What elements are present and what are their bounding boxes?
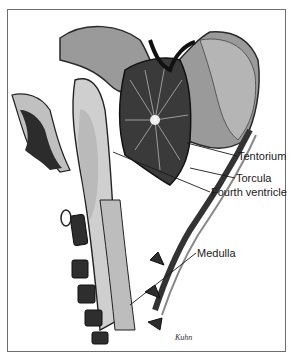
label-fourth-ventricle: Fourth ventricle (211, 186, 287, 198)
label-torcula: Torcula (236, 172, 271, 184)
leader-line-medulla (130, 253, 196, 305)
label-medulla: Medulla (197, 247, 236, 259)
label-tentorium: Tentorium (238, 150, 286, 162)
artist-signature: Kuhn (174, 333, 192, 342)
